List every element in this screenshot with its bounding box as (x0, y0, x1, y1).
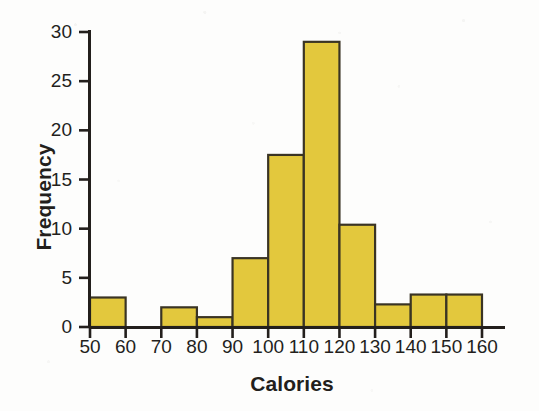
histogram-bar (268, 155, 304, 327)
histogram-bar (304, 42, 340, 327)
histogram-bar (339, 225, 375, 327)
x-tick-label: 90 (222, 336, 243, 358)
x-tick-label: 100 (252, 336, 284, 358)
histogram-bar (90, 298, 126, 328)
histogram-bar (161, 307, 197, 327)
y-tick-label: 20 (28, 119, 72, 141)
y-tick-label: 0 (28, 316, 72, 338)
x-tick-label: 60 (115, 336, 136, 358)
x-tick-label: 140 (395, 336, 427, 358)
histogram-bar (233, 258, 269, 327)
y-tick-label: 10 (28, 218, 72, 240)
x-tick-label: 160 (466, 336, 498, 358)
histogram-chart: Frequency Calories 051015202530 50607080… (0, 0, 539, 411)
bars-group (90, 42, 482, 327)
y-tick-label: 15 (28, 169, 72, 191)
y-tick-label: 30 (28, 21, 72, 43)
histogram-bar (375, 304, 411, 327)
y-tick-label: 25 (28, 70, 72, 92)
histogram-bar (197, 317, 233, 327)
x-tick-label: 150 (431, 336, 463, 358)
x-tick-label: 80 (186, 336, 207, 358)
y-tick-label: 5 (28, 267, 72, 289)
x-tick-label: 50 (79, 336, 100, 358)
histogram-bar (411, 295, 447, 327)
x-tick-label: 130 (359, 336, 391, 358)
histogram-bar (446, 295, 482, 327)
x-tick-label: 120 (324, 336, 356, 358)
x-tick-label: 70 (151, 336, 172, 358)
x-tick-label: 110 (289, 336, 319, 358)
